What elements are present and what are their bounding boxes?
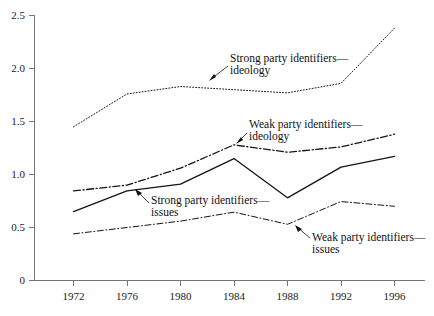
x-tick-label-1988: 1988 <box>277 290 300 302</box>
annotation-strong-issues: Strong party identifiers— issues <box>135 189 270 218</box>
annotation-strong-issues-line2: issues <box>151 206 179 218</box>
x-tick-label-1992: 1992 <box>330 290 352 302</box>
y-tick-label-1.0: 1.0 <box>11 168 25 180</box>
y-tick-label-0: 0 <box>20 274 26 286</box>
annotation-strong-ideology-arrowhead <box>209 74 216 81</box>
x-tick-label-1996: 1996 <box>384 290 407 302</box>
series-weak-ideology <box>74 134 395 191</box>
x-tick-label-1984: 1984 <box>223 290 246 302</box>
y-tick-label-2.0: 2.0 <box>11 62 25 74</box>
x-axis-tick-labels: 1972 1976 1980 1984 1988 1992 1996 <box>63 290 407 302</box>
y-tick-label-0.5: 0.5 <box>11 221 25 233</box>
series-weak-issues <box>74 202 395 234</box>
x-tick-label-1980: 1980 <box>170 290 193 302</box>
x-tick-label-1972: 1972 <box>63 290 85 302</box>
y-axis-ticks <box>29 16 35 281</box>
x-axis: 1972 1976 1980 1984 1988 1992 1996 <box>35 281 426 303</box>
annotation-weak-issues-arrowhead <box>295 225 302 232</box>
x-tick-label-1976: 1976 <box>116 290 139 302</box>
y-tick-label-2.5: 2.5 <box>11 9 25 21</box>
annotation-strong-ideology: Strong party identifiers— ideology <box>209 52 349 81</box>
y-tick-label-1.5: 1.5 <box>11 115 25 127</box>
y-axis-tick-labels: 2.5 2.0 1.5 1.0 0.5 0 <box>11 9 25 286</box>
series-strong-ideology <box>74 28 395 127</box>
y-axis: 2.5 2.0 1.5 1.0 0.5 0 <box>11 9 34 286</box>
annotation-weak-ideology-line2: ideology <box>249 130 289 143</box>
x-axis-ticks <box>74 281 395 287</box>
annotation-weak-issues-line2: issues <box>312 243 340 255</box>
line-chart-figure: 2.5 2.0 1.5 1.0 0.5 0 1972 1976 <box>0 0 434 316</box>
annotation-weak-ideology: Weak party identifiers— ideology <box>236 118 363 144</box>
annotation-weak-issues: Weak party identifiers— issues <box>295 225 426 255</box>
annotation-strong-ideology-line2: ideology <box>230 64 270 77</box>
chart-canvas: 2.5 2.0 1.5 1.0 0.5 0 1972 1976 <box>0 0 434 316</box>
